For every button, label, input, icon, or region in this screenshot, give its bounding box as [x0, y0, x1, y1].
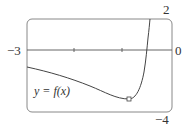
function-plot	[0, 0, 189, 128]
plot-frame	[27, 19, 172, 112]
function-label: y = f(x)	[34, 85, 70, 97]
y-max-label: 2	[163, 3, 170, 16]
x-max-label: 0	[175, 44, 182, 57]
y-min-label: −4	[155, 113, 169, 126]
x-min-label: −3	[7, 44, 21, 57]
minimum-marker	[127, 97, 131, 101]
